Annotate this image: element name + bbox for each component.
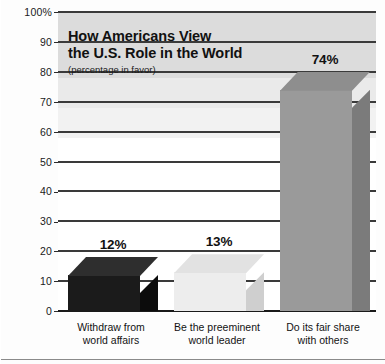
bar-value-label-3: 74% (270, 52, 380, 67)
y-axis-tick-label: 40 (40, 185, 52, 197)
category-axis-labels: Withdraw from world affairsBe the preemi… (58, 317, 376, 357)
bar-1 (68, 257, 158, 311)
y-axis-tick-20: 20 (4, 246, 52, 257)
y-axis-tick-0: 0 (4, 306, 52, 317)
y-axis-tick-60: 60 (4, 127, 52, 138)
bar-top-face (68, 257, 158, 276)
bar-front-face (68, 275, 140, 311)
chart-title: How Americans View the U.S. Role in the … (68, 28, 242, 62)
bottom-rule (0, 359, 385, 360)
title-block: How Americans View the U.S. Role in the … (68, 28, 242, 75)
y-axis-tick-70: 70 (4, 97, 52, 108)
y-axis-tick-label: 50 (40, 156, 52, 168)
y-axis-tick-30: 30 (4, 216, 52, 227)
y-axis-tick-label: 20 (40, 245, 52, 257)
y-axis-tick-90: 90 (4, 37, 52, 48)
bar-side-face (352, 90, 370, 311)
category-label-3: Do its fair share with others (264, 321, 382, 347)
category-label-2: Be the preeminent world leader (158, 321, 276, 347)
y-axis: 100%9080706050403020100 (0, 0, 52, 364)
y-axis-tick-50: 50 (4, 157, 52, 168)
category-label-1: Withdraw from world affairs (52, 321, 170, 347)
bar-side-face (140, 275, 158, 311)
bar-value-label-2: 13% (164, 234, 274, 249)
y-axis-tick-80: 80 (4, 67, 52, 78)
y-axis-tick-label: 30 (40, 215, 52, 227)
y-axis-tick-10: 10 (4, 276, 52, 287)
y-axis-tick-label: 10 (40, 275, 52, 287)
bar-side-face (246, 272, 264, 311)
y-axis-tick-100: 100% (4, 7, 52, 18)
bar-front-face (174, 272, 246, 311)
gridline-100 (58, 11, 376, 13)
chart-container: 100%9080706050403020100 How Americans Vi… (0, 0, 385, 364)
y-axis-tick-label: 80 (40, 66, 52, 78)
bar-top-face (174, 254, 264, 273)
bar-2 (174, 254, 264, 311)
left-rule (0, 0, 1, 364)
plot-area: How Americans View the U.S. Role in the … (58, 12, 376, 313)
bar-value-label-1: 12% (58, 237, 168, 252)
y-axis-tick-label: 70 (40, 96, 52, 108)
y-axis-tick-label: 60 (40, 126, 52, 138)
bar-3 (280, 72, 370, 311)
bar-front-face (280, 90, 352, 311)
y-axis-tick-label: 100% (24, 6, 52, 18)
chart-subtitle: (percentage in favor) (68, 64, 242, 75)
y-axis-tick-label: 0 (46, 305, 52, 317)
y-axis-tick-40: 40 (4, 186, 52, 197)
bar-top-face (280, 72, 370, 91)
y-axis-tick-label: 90 (40, 36, 52, 48)
